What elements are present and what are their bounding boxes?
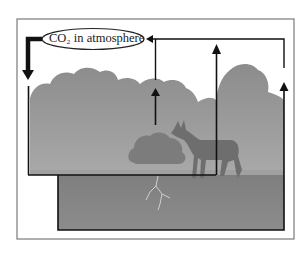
carbon-cycle-diagram: CO₂ in atmosphere — [0, 0, 307, 254]
atmosphere-label: CO₂ in atmosphere — [49, 32, 144, 45]
diagram-canvas — [0, 0, 307, 254]
soil — [58, 172, 284, 230]
